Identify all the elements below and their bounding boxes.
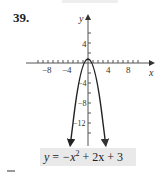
equation-lhs: y <box>44 150 49 164</box>
x-tick-label: −8 <box>42 65 52 75</box>
x-axis-label: x <box>148 67 154 78</box>
equation-rest: + 2x + 3 <box>80 150 124 164</box>
footer-mark <box>7 170 15 172</box>
y-axis-label: y <box>78 13 84 24</box>
y-tick-label: 4 <box>82 39 87 49</box>
x-tick-label: 4 <box>106 65 111 75</box>
equation-label: y = −x2 + 2x + 3 <box>44 149 123 165</box>
y-tick-label: −8 <box>78 99 87 108</box>
x-tick-label: −4 <box>62 65 72 75</box>
x-tick-label: 8 <box>126 65 131 75</box>
y-tick-label: −12 <box>73 119 86 128</box>
equation-term-x: −x <box>62 150 75 164</box>
